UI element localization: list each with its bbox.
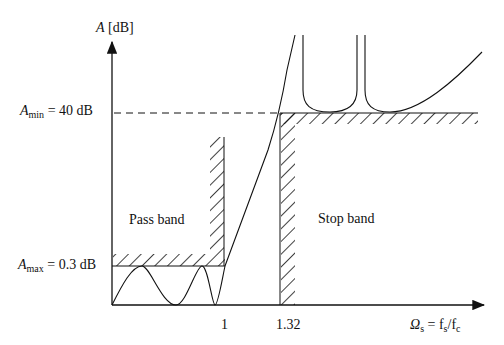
filter-specification-diagram bbox=[0, 0, 504, 345]
y-axis-label: A [dB] bbox=[96, 21, 134, 35]
x-axis-eq: = f bbox=[424, 317, 444, 332]
a-min-symbol: A bbox=[20, 103, 29, 118]
y-axis-unit: [dB] bbox=[108, 20, 134, 35]
stopband-response-curve-2 bbox=[365, 35, 482, 112]
tick-label-1: 1 bbox=[221, 318, 228, 332]
a-max-sub: max bbox=[27, 263, 44, 274]
stopband-edge-hatch bbox=[281, 113, 295, 305]
pass-band-label: Pass band bbox=[129, 213, 185, 227]
y-axis-symbol: A bbox=[96, 20, 105, 35]
a-min-value: = 40 dB bbox=[44, 103, 93, 118]
x-axis-label: Ωs = fs/fc bbox=[410, 318, 461, 334]
x-axis-slash: /f bbox=[448, 317, 457, 332]
x-axis-symbol: Ω bbox=[410, 317, 420, 332]
stopband-attenuation-hatch bbox=[280, 113, 478, 124]
tick-label-1-32: 1.32 bbox=[276, 318, 301, 332]
passband-response-curve bbox=[112, 266, 225, 305]
a-max-value: = 0.3 dB bbox=[44, 257, 96, 272]
a-min-sub: min bbox=[29, 109, 45, 120]
x-axis-eq-sub2: c bbox=[456, 323, 460, 334]
passband-ripple-hatch bbox=[113, 254, 225, 266]
stop-band-label: Stop band bbox=[318, 212, 374, 226]
a-max-label: Amax = 0.3 dB bbox=[18, 258, 96, 274]
a-min-label: Amin = 40 dB bbox=[20, 104, 93, 120]
passband-edge-hatch bbox=[210, 137, 224, 254]
a-max-symbol: A bbox=[18, 257, 27, 272]
stopband-response-curve-1 bbox=[303, 35, 357, 112]
